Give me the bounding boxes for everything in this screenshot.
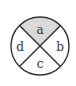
sector-label-a: a — [36, 23, 43, 37]
sector-label-c: c — [37, 57, 44, 71]
sector-label-d: d — [16, 40, 24, 54]
sector-label-b: b — [56, 40, 64, 54]
divided-circle-diagram: a b c d — [0, 0, 76, 86]
